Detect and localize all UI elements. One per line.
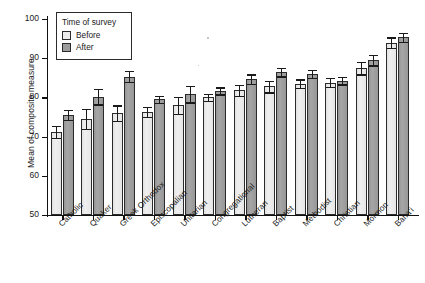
error-bar-cap: [143, 117, 152, 118]
error-bar-cap: [204, 94, 213, 95]
y-axis-tick: 50: [42, 215, 47, 216]
y-axis-tick: 80: [42, 97, 47, 98]
error-bar-cap: [52, 138, 61, 139]
error-bar-cap: [174, 114, 183, 115]
bar-after: [337, 81, 348, 215]
bar-chart-figure: Mean of composite measure 5060708090100 …: [0, 0, 425, 283]
error-bar-cap: [174, 97, 183, 98]
error-bar-cap: [338, 84, 347, 85]
error-bar-cap: [82, 109, 91, 110]
legend-label: After: [76, 42, 94, 52]
error-bar-cap: [277, 76, 286, 77]
error-bar-cap: [265, 92, 274, 93]
y-axis-tick: 60: [42, 176, 47, 177]
error-bar-cap: [113, 105, 122, 106]
error-bar-cap: [82, 129, 91, 130]
legend-entries: BeforeAfter: [62, 30, 126, 52]
error-bar: [269, 81, 270, 93]
error-bar: [129, 71, 130, 82]
bar-before: [356, 68, 367, 215]
y-axis-tick-label: 100: [25, 13, 39, 23]
error-bar: [403, 33, 404, 42]
error-bar-cap: [308, 70, 317, 71]
error-bar-cap: [94, 104, 103, 105]
error-bar-cap: [52, 126, 61, 127]
y-axis-tick: 90: [42, 58, 47, 59]
legend-title: Time of survey: [62, 17, 126, 27]
error-bar-cap: [125, 82, 134, 83]
bar-after: [63, 115, 74, 215]
error-bar: [86, 109, 87, 129]
error-bar: [178, 97, 179, 114]
y-axis-tick-label: 80: [30, 91, 39, 101]
error-bar-cap: [277, 68, 286, 69]
bar-before: [264, 86, 275, 215]
error-bar: [117, 105, 118, 121]
bar-before: [51, 132, 62, 215]
error-bar: [391, 37, 392, 47]
bar-before: [203, 97, 214, 215]
bar-after: [368, 60, 379, 215]
bar-before: [112, 113, 123, 215]
bar-before: [295, 84, 306, 215]
error-bar-cap: [113, 121, 122, 122]
legend-entry: After: [62, 42, 126, 52]
scan-speck: [207, 37, 209, 39]
error-bar-cap: [64, 120, 73, 121]
bar-after: [154, 99, 165, 215]
scan-speck: [198, 65, 199, 66]
error-bar-cap: [369, 55, 378, 56]
bar-after: [398, 37, 409, 215]
error-bar: [251, 74, 252, 83]
error-bar-cap: [155, 96, 164, 97]
error-bar-cap: [143, 107, 152, 108]
error-bar: [68, 110, 69, 120]
error-bar-cap: [216, 87, 225, 88]
bar-after: [215, 91, 226, 215]
error-bar-cap: [265, 81, 274, 82]
legend-swatch-after: [62, 43, 71, 52]
error-bar-cap: [357, 62, 366, 63]
legend-swatch-before: [62, 31, 71, 40]
error-bar: [239, 85, 240, 96]
error-bar: [361, 62, 362, 75]
error-bar: [147, 107, 148, 117]
error-bar-cap: [247, 74, 256, 75]
y-axis-tick-label: 60: [30, 170, 39, 180]
y-axis-tick-label: 50: [30, 209, 39, 219]
error-bar: [56, 126, 57, 139]
bar-after: [307, 74, 318, 215]
legend: Time of survey BeforeAfter: [56, 12, 132, 60]
y-axis-line: [47, 16, 48, 217]
y-axis-tick: 100: [42, 19, 47, 20]
error-bar-cap: [155, 103, 164, 104]
legend-label: Before: [76, 30, 100, 40]
bar-before: [386, 43, 397, 215]
error-bar-cap: [64, 110, 73, 111]
error-bar: [190, 86, 191, 102]
error-bar-cap: [296, 79, 305, 80]
error-bar-cap: [186, 86, 195, 87]
error-bar-cap: [338, 77, 347, 78]
bar-after: [93, 97, 104, 215]
error-bar-cap: [369, 65, 378, 66]
error-bar-cap: [387, 48, 396, 49]
bar-after: [276, 72, 287, 215]
error-bar-cap: [186, 102, 195, 103]
error-bar-cap: [326, 87, 335, 88]
y-axis-tick-label: 90: [30, 52, 39, 62]
y-axis-tick: 70: [42, 137, 47, 138]
error-bar-cap: [399, 42, 408, 43]
error-bar-cap: [387, 37, 396, 38]
error-bar-cap: [399, 33, 408, 34]
bar-after: [124, 77, 135, 215]
error-bar-cap: [296, 88, 305, 89]
error-bar-cap: [125, 71, 134, 72]
error-bar-cap: [204, 101, 213, 102]
bar-before: [81, 119, 92, 215]
error-bar-cap: [308, 78, 317, 79]
legend-entry: Before: [62, 30, 126, 40]
error-bar-cap: [235, 96, 244, 97]
y-axis-tick-label: 70: [30, 131, 39, 141]
error-bar-cap: [357, 74, 366, 75]
